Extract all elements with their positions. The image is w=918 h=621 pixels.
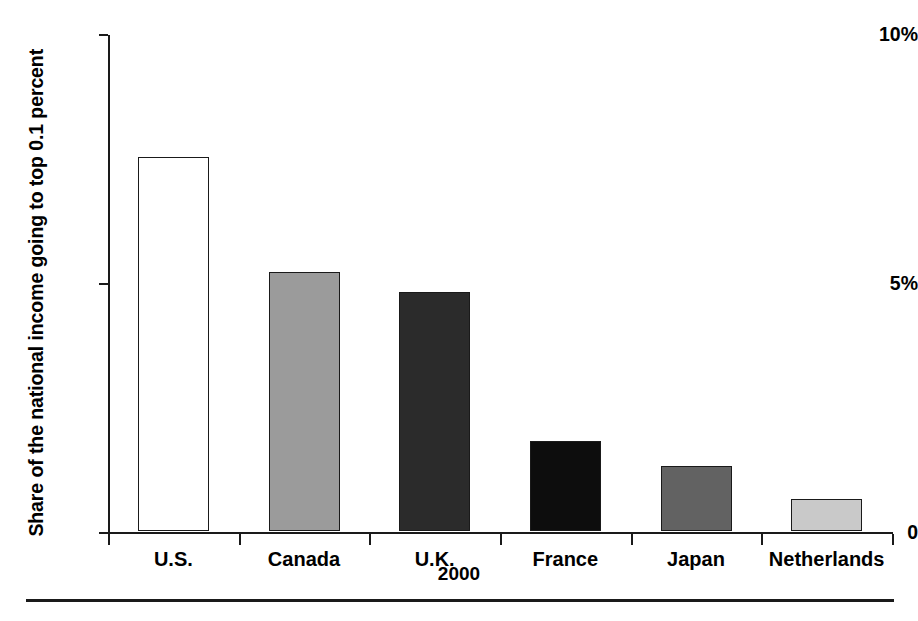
x-axis-title: 2000 [0,564,918,583]
x-axis-tick [500,534,502,545]
x-axis-tick [108,534,110,545]
bar-france [530,441,601,531]
bar-u-s [138,157,209,531]
bar-japan [661,466,732,531]
y-axis-tick [99,283,108,285]
bar-u-k [399,292,470,531]
y-axis-tick [99,532,108,534]
y-axis-line [108,35,110,534]
y-axis-tick [99,34,108,36]
plot-area [108,35,892,533]
bottom-divider-rule [26,599,894,602]
y-axis-tick-label: 10% [826,25,918,45]
y-axis-tick-label: 5% [826,274,918,294]
x-axis-tick [369,534,371,545]
y-axis-title: Share of the national income going to to… [27,33,47,553]
x-axis-tick [631,534,633,545]
x-axis-tick [239,534,241,545]
chart-figure: Share of the national income going to to… [0,0,918,621]
bar-canada [269,272,340,531]
y-axis-tick-label: 0 [826,523,918,543]
x-axis-tick [761,534,763,545]
